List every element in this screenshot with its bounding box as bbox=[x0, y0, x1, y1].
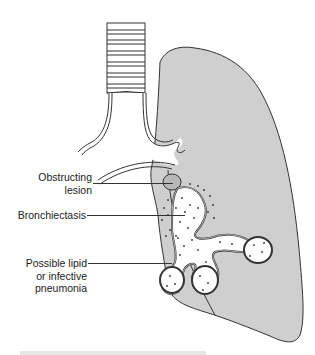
label-line: Obstructing bbox=[30, 171, 92, 184]
leader-line-pneumonia bbox=[88, 263, 172, 264]
label-line: pneumonia bbox=[10, 282, 87, 295]
label-pneumonia: Possible lipid or infective pneumonia bbox=[10, 257, 87, 295]
label-line: Bronchiectasis bbox=[10, 209, 86, 222]
label-line: lesion bbox=[30, 184, 92, 197]
leader-line-lesion bbox=[93, 183, 173, 184]
label-obstructing-lesion: Obstructing lesion bbox=[30, 171, 92, 196]
label-line: or infective bbox=[10, 270, 87, 283]
bottom-bar bbox=[20, 351, 206, 355]
label-line: Possible lipid bbox=[10, 257, 87, 270]
trachea bbox=[107, 23, 145, 93]
lung-shape bbox=[151, 47, 303, 342]
label-bronchiectasis: Bronchiectasis bbox=[10, 209, 86, 222]
leader-line-bronchiectasis bbox=[87, 215, 185, 216]
